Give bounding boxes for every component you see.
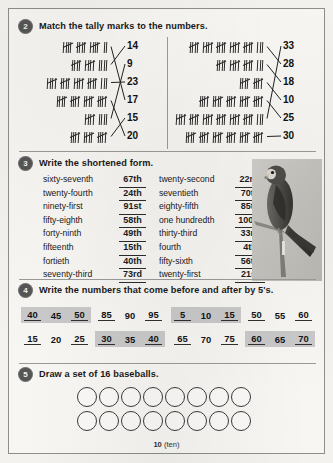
tally-panel-right: 332818102530: [169, 35, 317, 151]
sequence-answer-after[interactable]: 50: [71, 309, 88, 321]
section-divider: [19, 363, 316, 364]
sequence-given-number: 90: [122, 310, 139, 321]
parrot-photo: [252, 159, 322, 281]
ordinal-word: eighty-fifth: [159, 200, 199, 214]
sequence-given-number: 70: [198, 334, 215, 345]
ordinal-word: sixty-seventh: [43, 173, 93, 187]
sequence-answer-before[interactable]: 65: [174, 333, 191, 345]
ordinal-word: fifty-eighth: [43, 214, 83, 228]
sequence-answer-before[interactable]: 40: [24, 309, 41, 321]
sequence-answer-after[interactable]: 15: [221, 309, 238, 321]
tally-panel-left: 14923171520: [19, 35, 167, 151]
number-sequence: 606570: [245, 331, 315, 347]
ordinal-answer[interactable]: 91st: [119, 200, 146, 215]
sequence-answer-before[interactable]: 85: [98, 309, 115, 321]
sequence-answer-before[interactable]: 50: [248, 309, 265, 321]
ordinal-word: twenty-fourth: [43, 187, 93, 201]
baseball-circle[interactable]: [209, 387, 229, 407]
section-title-2: Match the tally marks to the numbers.: [39, 21, 208, 31]
baseball-circle[interactable]: [77, 387, 97, 407]
baseball-row: [77, 411, 251, 431]
ordinal-word: thirty-third: [159, 227, 197, 241]
page-number: 10: [153, 440, 161, 449]
page-number-word: (ten): [164, 440, 180, 449]
number-sequence: 505560: [245, 307, 315, 323]
baseball-circle[interactable]: [231, 387, 251, 407]
sequence-answer-before[interactable]: 15: [24, 333, 41, 345]
sequence-answer-after[interactable]: 70: [295, 333, 312, 345]
sequence-given-number: 65: [272, 334, 289, 345]
number-sequence: 404550: [21, 307, 91, 323]
sequence-answer-before[interactable]: 60: [248, 333, 265, 345]
section-divider: [19, 151, 316, 152]
baseball-circle[interactable]: [121, 387, 141, 407]
ordinal-answer[interactable]: 58th: [119, 214, 146, 229]
ordinal-word: fifteenth: [43, 241, 74, 255]
ordinal-word: twenty-second: [159, 173, 214, 187]
ordinal-answer[interactable]: 67th: [119, 173, 146, 188]
section-badge-2: 2: [19, 20, 32, 33]
baseball-circle[interactable]: [143, 411, 163, 431]
baseball-circle[interactable]: [77, 411, 97, 431]
worksheet-page: 2 Match the tally marks to the numbers. …: [0, 0, 333, 463]
baseball-circle[interactable]: [165, 411, 185, 431]
baseball-circle[interactable]: [209, 411, 229, 431]
baseball-circle[interactable]: [143, 387, 163, 407]
baseball-circle[interactable]: [99, 387, 119, 407]
number-sequence: 51015: [171, 307, 241, 323]
baseball-circle[interactable]: [99, 411, 119, 431]
section-divider: [19, 279, 316, 280]
sequence-answer-after[interactable]: 75: [221, 333, 238, 345]
baseball-circle[interactable]: [121, 411, 141, 431]
ordinal-answer[interactable]: 40th: [119, 255, 146, 270]
ordinal-word: fifty-sixth: [159, 255, 193, 269]
sequence-given-number: 20: [48, 334, 65, 345]
match-lines: [19, 35, 167, 151]
section-4-number-sequences: 4045508590955101550556015202530354065707…: [19, 281, 316, 363]
section-2-tally-match: 14923171520 332818102530: [19, 35, 316, 151]
number-sequence: 859095: [95, 307, 165, 323]
number-sequence: 657075: [171, 331, 241, 347]
ordinal-word: fortieth: [43, 255, 69, 269]
ordinal-word: ninety-first: [43, 200, 83, 214]
sequence-given-number: 45: [48, 310, 65, 321]
baseball-circle[interactable]: [231, 411, 251, 431]
sequence-answer-after[interactable]: 95: [145, 309, 162, 321]
sequence-answer-after[interactable]: 60: [295, 309, 312, 321]
sequence-answer-after[interactable]: 25: [71, 333, 88, 345]
ordinal-word: fourth: [159, 241, 181, 255]
sequence-given-number: 10: [198, 310, 215, 321]
ordinal-word: one hundredth: [159, 214, 214, 228]
page-footer: 10 (ten): [9, 440, 324, 449]
sequence-given-number: 35: [122, 334, 139, 345]
panel-divider: [167, 37, 168, 149]
sequence-answer-before[interactable]: 5: [174, 309, 191, 321]
ordinal-answer[interactable]: 15th: [119, 241, 146, 256]
number-sequence: 303540: [95, 331, 165, 347]
match-lines: [169, 35, 317, 151]
baseball-circle[interactable]: [187, 411, 207, 431]
number-sequence: 152025: [21, 331, 91, 347]
sequence-answer-after[interactable]: 40: [145, 333, 162, 345]
ordinal-word: forty-ninth: [43, 227, 81, 241]
ordinal-word: seventieth: [159, 187, 198, 201]
ordinal-answer[interactable]: 49th: [119, 227, 146, 242]
baseball-circle[interactable]: [187, 387, 207, 407]
sequence-given-number: 55: [272, 310, 289, 321]
ordinal-answer[interactable]: 24th: [119, 187, 146, 202]
sequence-answer-before[interactable]: 30: [98, 333, 115, 345]
baseball-row: [77, 387, 251, 407]
worksheet-sheet: 2 Match the tally marks to the numbers. …: [8, 8, 325, 454]
baseball-circle[interactable]: [165, 387, 185, 407]
